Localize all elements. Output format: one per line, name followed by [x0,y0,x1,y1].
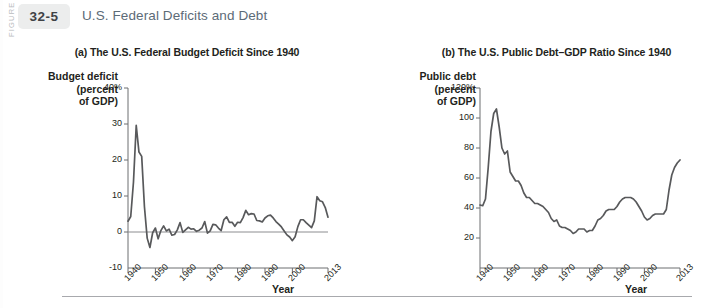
figure-number: 32-5 [18,4,70,29]
figure-bottom-rule [62,296,692,297]
y-tick-label: 60 [432,172,474,182]
panel-b-x-axis-title: Year [625,283,647,295]
y-tick-label: 20 [80,154,122,164]
figure-root: FIGURE 32-5 U.S. Federal Deficits and De… [0,0,707,308]
panel-a-x-axis-title: Year [272,283,294,295]
y-tick-label: 40% [80,82,122,92]
page-title: U.S. Federal Deficits and Debt [82,8,267,23]
figure-header: FIGURE 32-5 U.S. Federal Deficits and De… [0,0,707,34]
panel-a: (a) The U.S. Federal Budget Deficit Sinc… [0,34,390,308]
y-tick-label: 80 [432,142,474,152]
y-tick-label: 40 [432,202,474,212]
y-tick-label: 10 [80,190,122,200]
y-tick-label: 20 [432,232,474,242]
y-tick-label: -10 [80,262,122,272]
figure-side-label: FIGURE [4,2,18,36]
y-tick-label: 0 [80,226,122,236]
y-tick-label: 30 [80,118,122,128]
y-tick-label: 120% [432,82,474,92]
panel-b: (b) The U.S. Public Debt–GDP Ratio Since… [390,34,707,308]
y-tick-label: 100 [432,112,474,122]
